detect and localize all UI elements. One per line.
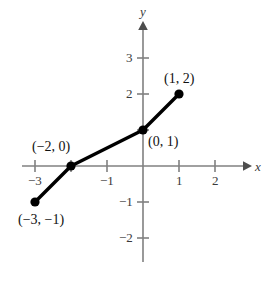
y-tick-label--2: −2 [119, 231, 133, 244]
point-label-p2: (−2, 0) [32, 140, 70, 154]
x-axis-arrow [243, 161, 252, 171]
x-tick-label--1: −1 [100, 174, 114, 187]
point-label-p1: (−3, −1) [18, 213, 64, 227]
y-axis-label: y [140, 5, 146, 18]
x-tick-label--3: −3 [28, 174, 42, 187]
x-tick-label-2: 2 [212, 174, 219, 187]
graph-figure: −3 −1 1 2 3 2 −1 −2 x y (−3, −1) (−2, 0)… [0, 0, 270, 283]
y-tick-label--1: −1 [119, 195, 133, 208]
data-point-marker-p3 [138, 125, 147, 134]
x-axis-label: x [255, 160, 261, 173]
y-tick-label-2: 2 [126, 87, 133, 100]
data-point-marker-p4 [174, 89, 183, 98]
y-axis-arrow [138, 21, 148, 30]
y-tick-label-3: 3 [126, 51, 133, 64]
data-point-marker-p2 [66, 161, 75, 170]
x-tick-label-1: 1 [176, 174, 183, 187]
point-label-p4: (1, 2) [164, 72, 194, 86]
point-label-p3: (0, 1) [148, 135, 178, 149]
data-point-marker-p1 [30, 197, 39, 206]
